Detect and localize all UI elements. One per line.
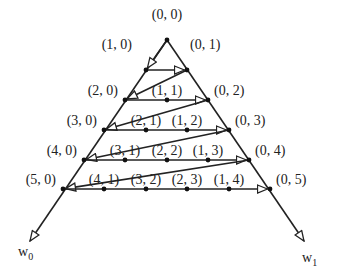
- node-label-2-2: (2, 2): [152, 143, 183, 159]
- node-dot-3-1: [123, 158, 128, 163]
- node-dot-0-5: [268, 187, 273, 192]
- node-dot-2-1: [144, 128, 149, 133]
- node-label-2-0: (2, 0): [88, 83, 119, 99]
- traversal-edge-0: [147, 40, 167, 68]
- node-dot-3-0: [102, 128, 107, 133]
- node-label-0-3: (0, 3): [235, 113, 266, 129]
- node-dot-1-2: [185, 128, 190, 133]
- node-label-3-1: (3, 1): [110, 143, 141, 159]
- node-dot-1-0: [144, 68, 149, 73]
- node-label-1-4: (1, 4): [214, 172, 245, 188]
- node-dot-5-0: [61, 187, 66, 192]
- node-label-4-1: (4, 1): [89, 172, 120, 188]
- node-label-0-5: (0, 5): [276, 172, 307, 188]
- node-label-0-4: (0, 4): [255, 143, 286, 159]
- node-dot-0-4: [247, 158, 252, 163]
- node-label-0-0: (0, 0): [152, 7, 183, 23]
- node-label-5-0: (5, 0): [26, 172, 57, 188]
- node-dot-1-4: [227, 187, 232, 192]
- node-label-4-0: (4, 0): [47, 143, 78, 159]
- node-label-1-1: (1, 1): [152, 83, 183, 99]
- axis-label-w1: w1: [302, 250, 317, 268]
- node-label-0-2: (0, 2): [214, 83, 245, 99]
- node-dot-0-2: [206, 98, 211, 103]
- node-label-1-3: (1, 3): [193, 143, 224, 159]
- node-label-1-2: (1, 2): [172, 113, 203, 129]
- axis-label-w0: w0: [18, 244, 33, 262]
- node-dot-0-1: [185, 68, 190, 73]
- node-dot-2-3: [185, 187, 190, 192]
- node-dot-2-0: [123, 98, 128, 103]
- node-dot-4-0: [82, 158, 87, 163]
- node-label-3-2: (3, 2): [131, 172, 162, 188]
- node-label-1-0: (1, 0): [102, 37, 133, 53]
- lattice-traversal-diagram: (0, 0)(1, 0)(0, 1)(2, 0)(1, 1)(0, 2)(3, …: [0, 0, 337, 277]
- node-dot-1-3: [206, 158, 211, 163]
- node-dot-0-3: [227, 128, 232, 133]
- node-label-2-3: (2, 3): [172, 172, 203, 188]
- node-label-3-0: (3, 0): [67, 113, 98, 129]
- node-dot-2-2: [165, 158, 170, 163]
- node-label-0-1: (0, 1): [190, 37, 221, 53]
- axis-labels: w0w1: [18, 244, 317, 268]
- node-label-2-1: (2, 1): [131, 113, 162, 129]
- node-dot-4-1: [102, 187, 107, 192]
- node-dot-0-0: [165, 38, 170, 43]
- node-dot-3-2: [144, 187, 149, 192]
- node-dot-1-1: [165, 98, 170, 103]
